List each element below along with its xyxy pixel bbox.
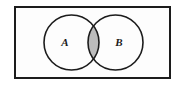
venn-diagram-canvas: A B (0, 0, 183, 87)
set-b-label: B (114, 36, 122, 48)
set-a-label: A (60, 36, 68, 48)
venn-diagram-figure: A B (0, 0, 183, 87)
